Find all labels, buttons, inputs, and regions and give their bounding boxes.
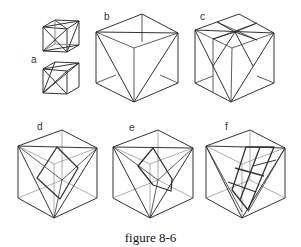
cube-a-bottom [43, 62, 79, 94]
cube-e [113, 130, 193, 218]
panel-label-c: c [200, 12, 205, 22]
panel-label-f: f [225, 122, 228, 132]
figure-caption: figure 8-6 [0, 230, 301, 246]
cube-a-top [43, 20, 79, 52]
cube-f [206, 130, 285, 218]
panel-label-d: d [37, 122, 43, 132]
panel-label-a: a [31, 55, 37, 65]
panel-label-b: b [104, 12, 110, 22]
cube-b [96, 14, 178, 102]
cube-c [195, 14, 274, 102]
panel-label-e: e [129, 123, 135, 133]
figure-canvas [0, 0, 301, 247]
cube-d [18, 130, 97, 218]
